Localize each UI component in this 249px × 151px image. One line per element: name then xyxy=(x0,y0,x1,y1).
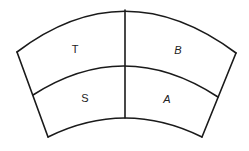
inner-front-arc xyxy=(48,118,202,137)
seating-diagram: T B S A xyxy=(0,0,249,151)
section-label-soprano: S xyxy=(81,92,88,104)
right-edge-line xyxy=(202,53,236,137)
outer-back-arc xyxy=(17,11,236,53)
section-label-bass: B xyxy=(174,44,181,56)
section-label-tenor: T xyxy=(72,43,79,55)
section-label-alto: A xyxy=(162,93,170,105)
left-edge-line xyxy=(17,52,48,137)
